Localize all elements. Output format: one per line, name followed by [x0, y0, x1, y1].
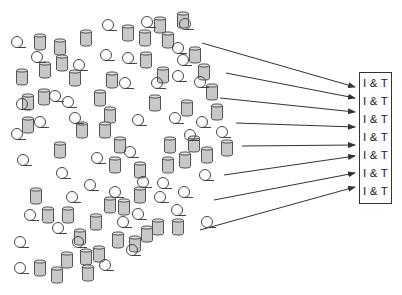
cylinder-icon: [77, 122, 88, 138]
cylinder-icon: [83, 265, 94, 281]
cylinder-icon: [91, 214, 102, 230]
coil-icon: [53, 223, 68, 234]
box-label: I & T: [363, 148, 391, 162]
coil-icon: [35, 117, 50, 128]
cylinder-icon: [55, 39, 66, 55]
cylinder-icon: [55, 142, 66, 158]
coil-icon: [12, 37, 27, 48]
coil-icon: [123, 53, 138, 64]
box-label: I & T: [363, 184, 391, 198]
arrow: [200, 187, 355, 230]
cylinder-icon: [40, 62, 51, 78]
cylinder-icon: [202, 147, 213, 163]
coil-icon: [103, 20, 118, 31]
cylinder-group: [17, 12, 233, 283]
coil-icon: [142, 17, 157, 28]
coil-icon: [125, 147, 140, 158]
cylinder-icon: [190, 47, 201, 63]
box-label: I & T: [363, 94, 391, 108]
coil-icon: [173, 43, 188, 54]
cylinder-icon: [35, 260, 46, 276]
cylinder-icon: [100, 122, 111, 138]
coil-icon: [133, 115, 148, 126]
coil-icon: [118, 217, 133, 228]
diagram-canvas: [0, 0, 402, 295]
cylinder-icon: [140, 30, 151, 46]
cylinder-icon: [222, 140, 233, 156]
box-label: I & T: [363, 76, 391, 90]
coil-icon: [100, 260, 115, 271]
cylinder-icon: [119, 199, 130, 215]
arrow: [224, 156, 355, 175]
coil-icon: [172, 205, 187, 216]
cylinder-icon: [63, 207, 74, 223]
cylinder-icon: [57, 55, 68, 71]
coil-icon: [101, 50, 116, 61]
cylinder-icon: [135, 187, 146, 203]
coil-icon: [138, 177, 153, 188]
cylinder-icon: [141, 52, 152, 68]
coil-icon: [63, 97, 78, 108]
coil-icon: [67, 192, 82, 203]
cylinder-icon: [165, 137, 176, 153]
cylinder-icon: [62, 252, 73, 268]
cylinder-icon: [52, 267, 63, 283]
arrow-group: [200, 43, 355, 230]
cylinder-icon: [150, 95, 161, 111]
cylinder-icon: [158, 67, 169, 83]
coil-icon: [217, 127, 232, 138]
cylinder-icon: [70, 70, 81, 86]
cylinder-icon: [153, 219, 164, 235]
cylinder-icon: [135, 162, 146, 178]
cylinder-icon: [163, 32, 174, 48]
cylinder-icon: [142, 226, 153, 242]
arrow: [236, 123, 355, 127]
coil-icon: [74, 60, 89, 71]
arrow: [214, 173, 355, 200]
cylinder-icon: [105, 107, 116, 123]
coil-icon: [18, 155, 33, 166]
cylinder-icon: [23, 117, 34, 133]
coil-icon: [173, 71, 188, 82]
box-label: I & T: [363, 112, 391, 126]
coil-icon: [85, 180, 100, 191]
coil-icon: [179, 187, 194, 198]
cylinder-icon: [212, 104, 223, 120]
coil-icon: [25, 210, 40, 221]
coil-icon: [120, 78, 135, 89]
cylinder-icon: [39, 89, 50, 105]
cylinder-icon: [31, 188, 42, 204]
coil-icon: [110, 187, 125, 198]
coil-icon: [50, 91, 65, 102]
cylinder-icon: [35, 34, 46, 50]
cylinder-icon: [178, 12, 189, 28]
cylinder-icon: [105, 197, 116, 213]
coil-icon: [32, 52, 47, 63]
cylinder-icon: [173, 219, 184, 235]
box-label: I & T: [363, 166, 391, 180]
cylinder-icon: [95, 90, 106, 106]
cylinder-icon: [115, 137, 126, 153]
cylinder-icon: [182, 100, 193, 116]
coil-icon: [15, 263, 30, 274]
cylinder-icon: [207, 84, 218, 100]
coil-icon: [57, 168, 72, 179]
cylinder-icon: [43, 207, 54, 223]
coil-icon: [133, 209, 148, 220]
coil-icon: [92, 153, 107, 164]
coil-icon: [158, 178, 173, 189]
cylinder-icon: [81, 30, 92, 46]
cylinder-icon: [123, 25, 134, 41]
i-and-t-box: I & T I & T I & T I & T I & T I & T I & …: [359, 72, 392, 204]
coil-icon: [197, 117, 212, 128]
cylinder-icon: [110, 157, 121, 173]
cylinder-icon: [180, 152, 191, 168]
cylinder-icon: [163, 157, 174, 173]
coil-icon: [200, 170, 215, 181]
cylinder-icon: [130, 236, 141, 252]
arrow: [226, 73, 355, 98]
cylinder-icon: [113, 232, 124, 248]
arrow: [242, 145, 355, 146]
cylinder-icon: [81, 249, 92, 265]
coil-icon: [155, 192, 170, 203]
